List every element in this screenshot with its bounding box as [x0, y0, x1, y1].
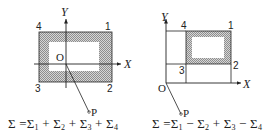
right-figure: Y X O P 1 2 3 4: [158, 10, 251, 119]
left-corner-3: 3: [35, 83, 41, 94]
right-x-label: X: [242, 77, 251, 91]
formula-eq: =: [19, 116, 27, 131]
right-corner-1: 1: [228, 20, 234, 31]
formula-term: Σ: [171, 116, 179, 131]
formula-eq: =: [163, 116, 171, 131]
right-shaded-frame: [186, 31, 231, 64]
formula-term: Σ: [250, 116, 258, 131]
left-shaded-frame: [39, 32, 112, 82]
left-corner-1: 1: [105, 21, 111, 32]
formula-lhs: Σ: [8, 116, 16, 131]
right-y-label: Y: [161, 10, 169, 24]
left-x-label: X: [123, 57, 132, 71]
formula-term: Σ: [53, 116, 61, 131]
right-corner-4: 4: [181, 20, 187, 31]
left-y-label: Y: [61, 5, 69, 19]
left-corner-2: 2: [107, 83, 113, 94]
formula-term: Σ: [27, 116, 35, 131]
formula-lhs: Σ: [152, 116, 160, 131]
left-formula: Σ =Σ1 + Σ2 + Σ3 + Σ4: [8, 116, 118, 132]
right-origin-label: O: [158, 82, 166, 94]
left-origin-label: O: [56, 51, 64, 63]
formula-term: Σ: [106, 116, 114, 131]
formula-term: Σ: [197, 116, 205, 131]
left-corner-4: 4: [36, 21, 42, 32]
right-corner-3: 3: [179, 65, 185, 76]
right-op-line: [166, 83, 181, 114]
left-figure: Y X O P 1 2 3 4: [34, 5, 132, 118]
right-corner-2: 2: [233, 60, 239, 71]
right-formula: Σ =Σ1 − Σ2 + Σ3 − Σ4: [152, 116, 262, 132]
